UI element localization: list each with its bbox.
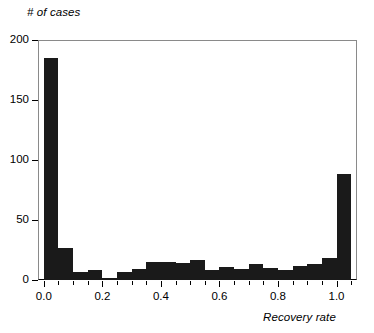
x-tick-mark-minor [132,281,133,285]
x-axis-title: Recovery rate [263,311,336,323]
bars-layer [38,40,357,280]
histogram-bar [293,266,308,280]
y-tick-label: 150 [0,93,29,105]
histogram-bar [132,269,147,280]
x-tick-mark [278,281,279,287]
y-axis-title: # of cases [27,6,80,18]
histogram-bar [322,258,337,280]
histogram-bar [73,272,88,280]
y-tick-label: 200 [0,33,29,45]
x-tick-mark [44,281,45,287]
y-tick-mark [32,220,38,221]
y-tick-label: 0 [0,273,29,285]
x-tick-mark-minor [293,281,294,285]
histogram-bar [102,278,117,280]
x-tick-mark-minor [351,281,352,285]
x-tick-label: 0.0 [29,290,59,302]
histogram-bar [161,262,176,280]
x-tick-mark [161,281,162,287]
histogram-bar [176,263,191,280]
x-tick-mark [102,281,103,287]
histogram-bar [263,268,278,280]
x-tick-mark [337,281,338,287]
histogram-bar [117,272,132,280]
x-tick-label: 0.8 [263,290,293,302]
y-tick-mark [32,160,38,161]
y-tick-label: 50 [0,213,29,225]
x-tick-mark-minor [249,281,250,285]
x-tick-label: 0.6 [204,290,234,302]
x-tick-mark [219,281,220,287]
histogram-bar [307,264,322,280]
histogram-bar [146,262,161,280]
y-tick-mark [32,100,38,101]
histogram-bar [278,270,293,280]
histogram-bar [58,248,73,280]
y-tick-mark [32,280,38,281]
x-tick-mark-minor [73,281,74,285]
histogram-bar [190,260,205,280]
x-tick-mark-minor [146,281,147,285]
x-tick-mark-minor [58,281,59,285]
histogram-bar [88,270,103,280]
x-tick-mark-minor [322,281,323,285]
x-tick-mark-minor [190,281,191,285]
histogram-figure: # of cases 050100150200 0.00.20.40.60.81… [0,0,374,333]
histogram-bar [249,264,264,280]
histogram-bar [337,174,352,280]
x-tick-label: 0.2 [87,290,117,302]
x-tick-mark-minor [307,281,308,285]
histogram-bar [205,270,220,280]
x-tick-mark-minor [205,281,206,285]
histogram-bar [44,58,59,280]
x-tick-mark-minor [117,281,118,285]
x-tick-label: 1.0 [322,290,352,302]
x-tick-label: 0.4 [146,290,176,302]
x-tick-mark-minor [263,281,264,285]
histogram-bar [234,269,249,280]
x-tick-mark-minor [88,281,89,285]
x-tick-mark-minor [234,281,235,285]
histogram-bar [219,267,234,280]
y-tick-label: 100 [0,153,29,165]
y-tick-mark [32,40,38,41]
x-tick-mark-minor [176,281,177,285]
